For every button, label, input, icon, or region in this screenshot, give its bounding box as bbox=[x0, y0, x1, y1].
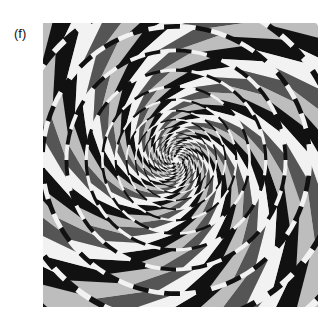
panel-label: (f) bbox=[14, 26, 26, 41]
spiral-illusion-image bbox=[43, 23, 318, 307]
fraser-spiral-figure bbox=[43, 23, 318, 307]
